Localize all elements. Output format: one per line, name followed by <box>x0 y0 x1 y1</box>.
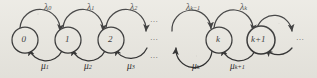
death-rate-label-k: μk <box>192 62 200 72</box>
death-rate-label-k-plus-1: μk+1 <box>230 62 245 72</box>
birth-rate-label-0: λ0 <box>44 3 51 13</box>
birth-rate-label-2: λ2 <box>130 3 137 13</box>
state-label-k: k <box>216 35 220 44</box>
birth-death-state-diagram: 0 1 2 k k+1 λ0 λ1 λ2 λk−1 λk μ1 μ2 μ3 μk… <box>0 0 317 78</box>
state-label-1: 1 <box>65 35 70 44</box>
state-label-0: 0 <box>22 35 27 44</box>
ellipsis-middle-center: … <box>150 34 159 42</box>
birth-rate-label-1: λ1 <box>87 3 94 13</box>
death-rate-label-2: μ2 <box>84 62 92 72</box>
birth-rate-label-k-minus-1: λk−1 <box>186 3 200 13</box>
death-rate-label-3: μ3 <box>127 62 135 72</box>
state-label-2: 2 <box>108 35 113 44</box>
birth-arc-k-minus-1 <box>172 10 211 31</box>
birth-rate-label-k: λk <box>240 3 247 13</box>
death-arc-1 <box>29 49 62 61</box>
death-rate-label-1: μ1 <box>41 62 49 72</box>
ellipsis-middle-top: … <box>150 16 159 24</box>
ellipsis-right-end: … <box>296 34 305 42</box>
ellipsis-middle-bottom: … <box>150 52 159 60</box>
death-arc-2 <box>72 49 105 61</box>
state-label-k-plus-1: k+1 <box>251 35 266 44</box>
